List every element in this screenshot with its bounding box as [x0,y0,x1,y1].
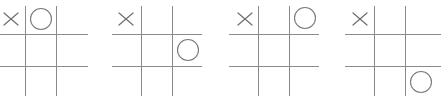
mark-o-bottom-right [411,72,432,93]
tic-tac-toe-board-1 [0,0,90,105]
tic-tac-toe-board-3 [227,0,327,105]
mark-o-middle-right [178,40,199,61]
mark-o-top-center [31,9,52,30]
mark-x-top-left [4,13,18,25]
tic-tac-toe-board-2 [110,0,210,105]
board-4-grid [343,0,441,105]
tic-tac-toe-figure [0,0,441,105]
mark-x-top-left [238,13,252,25]
mark-x-top-left [353,13,367,25]
mark-o-top-right [295,8,316,29]
board-2-grid [110,0,210,105]
tic-tac-toe-board-4 [343,0,441,105]
board-1-grid [0,0,90,105]
mark-x-top-left [119,13,133,25]
board-3-grid [227,0,327,105]
